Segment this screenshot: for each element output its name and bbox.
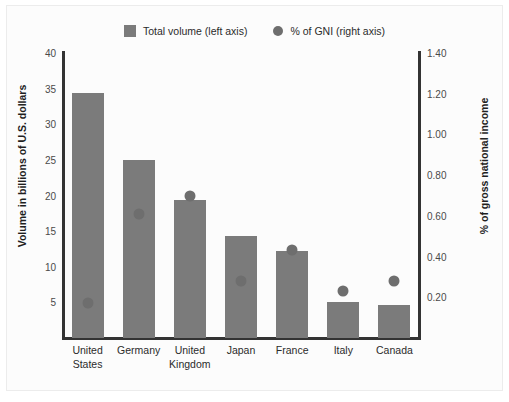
x-axis-label-line: Kingdom xyxy=(158,358,222,372)
y-axis-left-ticks: 510152025303540 xyxy=(26,0,56,402)
x-axis-label-line: Canada xyxy=(362,344,426,358)
y-axis-left-tick-label: 10 xyxy=(30,261,56,272)
plot-area xyxy=(62,53,420,338)
legend-square-swatch-icon xyxy=(124,25,136,37)
y-axis-left-tick-label: 30 xyxy=(30,119,56,130)
legend-item-percent-gni: % of GNI (right axis) xyxy=(273,25,385,37)
dot-japan[interactable] xyxy=(236,276,247,287)
dot-germany[interactable] xyxy=(133,208,144,219)
y-axis-right-ticks: 0.200.400.600.801.001.201.40 xyxy=(427,0,467,402)
x-axis-category-labels: UnitedStatesGermanyUnitedKingdomJapanFra… xyxy=(62,344,420,384)
dot-france[interactable] xyxy=(287,245,298,256)
y-axis-right-tick-label: 1.40 xyxy=(427,48,461,59)
y-axis-left-tick-label: 25 xyxy=(30,154,56,165)
y-axis-right-tick-label: 0.40 xyxy=(427,251,461,262)
dot-united-kingdom[interactable] xyxy=(184,190,195,201)
y-axis-right-tick-label: 0.20 xyxy=(427,292,461,303)
dot-canada[interactable] xyxy=(389,276,400,287)
y-axis-right-tick-label: 1.20 xyxy=(427,88,461,99)
y-axis-left-title: Volume in billions of U.S. dollars xyxy=(16,66,28,266)
bar-italy[interactable] xyxy=(327,302,359,338)
y-axis-left-tick-label: 40 xyxy=(30,48,56,59)
x-axis-label-canada: Canada xyxy=(362,344,426,358)
y-axis-right-tick-label: 1.00 xyxy=(427,129,461,140)
y-axis-left-tick-label: 15 xyxy=(30,226,56,237)
legend-circle-swatch-icon xyxy=(273,26,283,36)
legend-item-total-volume: Total volume (left axis) xyxy=(124,25,247,37)
dot-united-states[interactable] xyxy=(82,298,93,309)
bar-united-kingdom[interactable] xyxy=(174,200,206,338)
bar-japan[interactable] xyxy=(225,236,257,338)
legend-label-percent-gni: % of GNI (right axis) xyxy=(290,25,385,37)
y-axis-right-tick-label: 0.80 xyxy=(427,170,461,181)
y-axis-right-tick-label: 0.60 xyxy=(427,210,461,221)
bar-france[interactable] xyxy=(276,251,308,338)
bar-germany[interactable] xyxy=(123,160,155,338)
chart-figure: Total volume (left axis) % of GNI (right… xyxy=(0,0,509,402)
bar-canada[interactable] xyxy=(378,305,410,338)
dot-italy[interactable] xyxy=(338,286,349,297)
y-axis-left-tick-label: 20 xyxy=(30,190,56,201)
legend-label-total-volume: Total volume (left axis) xyxy=(143,25,247,37)
y-axis-left-tick-label: 35 xyxy=(30,83,56,94)
y-axis-left-tick-label: 5 xyxy=(30,297,56,308)
y-axis-right-title: % of gross national income xyxy=(478,56,490,276)
x-axis-label-line: States xyxy=(56,358,120,372)
